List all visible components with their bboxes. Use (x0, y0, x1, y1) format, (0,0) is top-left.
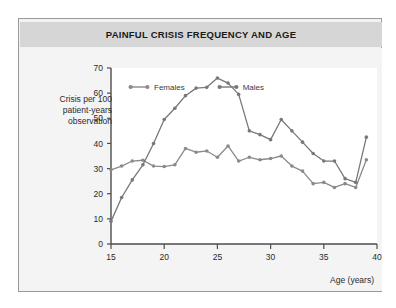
data-point (173, 106, 177, 110)
data-point (365, 135, 369, 139)
data-point (258, 158, 262, 162)
data-point (301, 169, 305, 173)
chart-title-bar: PAINFUL CRISIS FREQUENCY AND AGE (20, 22, 382, 47)
x-axis-tick-label: 15 (106, 252, 116, 262)
x-axis-label: Age (years) (330, 275, 374, 285)
data-point (226, 144, 230, 148)
data-point (343, 177, 347, 181)
data-point (354, 186, 358, 190)
data-point (311, 152, 315, 156)
data-point (322, 181, 326, 185)
y-axis-label-line-2: patient-years (34, 105, 112, 116)
data-point (248, 155, 252, 159)
data-point (141, 163, 145, 167)
x-axis-tick-label: 35 (319, 252, 329, 262)
data-point (152, 142, 156, 146)
data-point (269, 138, 273, 142)
y-axis-tick-label: 10 (94, 214, 104, 224)
x-axis-tick-label: 30 (266, 252, 276, 262)
data-point (343, 182, 347, 186)
y-axis-tick-label: 20 (94, 189, 104, 199)
legend-label-females: Females (154, 83, 185, 92)
data-point (354, 181, 358, 185)
data-point (333, 186, 337, 190)
chart-legend: Females Males (128, 79, 328, 95)
data-point (130, 159, 134, 163)
data-point (173, 163, 177, 167)
data-point (184, 147, 188, 151)
data-point (120, 164, 124, 168)
y-axis-tick-label: 70 (94, 63, 104, 73)
data-point (290, 129, 294, 133)
y-axis-tick-label: 40 (94, 139, 104, 149)
legend-item-females: Females (128, 83, 185, 92)
data-point (216, 155, 220, 159)
legend-label-males: Males (243, 83, 264, 92)
data-point (258, 133, 262, 137)
x-axis-tick-label: 25 (213, 252, 223, 262)
y-axis-tick-label: 30 (94, 164, 104, 174)
x-axis-tick-label: 40 (372, 252, 382, 262)
data-point (365, 158, 369, 162)
data-point (152, 164, 156, 168)
legend-swatch-males-icon (217, 83, 239, 91)
data-point (301, 140, 305, 144)
data-point (248, 129, 252, 133)
data-point (333, 159, 337, 163)
data-point (311, 182, 315, 186)
x-axis-tick-label: 20 (159, 252, 169, 262)
legend-swatch-females-icon (128, 83, 150, 91)
data-point (162, 118, 166, 122)
y-axis-label: Crisis per 100 patient-years observation (34, 94, 112, 127)
chart-panel: PAINFUL CRISIS FREQUENCY AND AGE Females… (18, 18, 382, 292)
data-point (279, 154, 283, 158)
data-point (194, 150, 198, 154)
data-point (109, 220, 113, 224)
data-point (269, 157, 273, 161)
chart-card: Females Males Crisis per 100 patient-yea… (20, 48, 382, 291)
data-point (290, 164, 294, 168)
y-axis-label-line-1: Crisis per 100 (34, 94, 112, 105)
data-point (237, 159, 241, 163)
y-axis-label-line-3: observation (34, 116, 112, 127)
data-point (109, 168, 113, 172)
data-point (205, 149, 209, 153)
legend-item-males: Males (217, 83, 264, 92)
page-title: PAINFUL CRISIS FREQUENCY AND AGE (106, 29, 296, 40)
data-point (120, 196, 124, 200)
data-point (162, 165, 166, 169)
y-axis-tick-label: 0 (98, 239, 103, 249)
data-point (130, 178, 134, 182)
data-point (279, 118, 283, 122)
data-point (322, 159, 326, 163)
